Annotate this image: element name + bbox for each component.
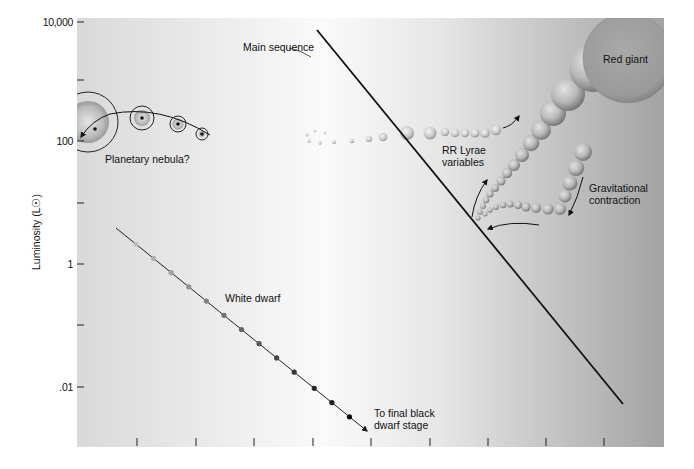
annotation-gravitational-1: Gravitational (589, 182, 648, 194)
nebula-center-dot (140, 116, 144, 120)
annotation-white-dwarf: White dwarf (225, 292, 281, 304)
star-sphere (471, 129, 480, 138)
star-sphere (574, 143, 592, 161)
star-sphere (366, 136, 372, 142)
star-sphere (514, 201, 522, 209)
annotation-rr-lyrae-1: RR Lyrae (442, 144, 486, 156)
star-sphere (461, 129, 470, 138)
star-sphere (483, 197, 490, 204)
star-sphere (480, 128, 490, 138)
star-sphere (522, 203, 531, 212)
white-dwarf-dot (329, 400, 334, 405)
star-sphere (477, 209, 483, 215)
annotation-gravitational-2: contraction (589, 194, 641, 206)
star-sphere (318, 141, 322, 145)
star-sphere (491, 125, 501, 135)
star-sphere (332, 140, 336, 144)
white-dwarf-dot (186, 284, 191, 289)
white-dwarf-dot (239, 327, 244, 332)
chart-canvas: 10,0001001.01 Main sequenceRed giantPlan… (0, 0, 694, 469)
hr-diagram: 10,0001001.01 Main sequenceRed giantPlan… (0, 0, 694, 469)
star-sphere (314, 130, 317, 133)
star-sphere (497, 177, 506, 186)
white-dwarf-dot (169, 270, 174, 275)
annotation-black-dwarf-1: To final black (374, 407, 435, 419)
white-dwarf-dot (256, 341, 261, 346)
star-sphere (559, 190, 572, 203)
white-dwarf-dot (133, 242, 138, 247)
white-dwarf-dot (312, 386, 317, 391)
annotation-red-giant: Red giant (603, 53, 648, 65)
white-dwarf-dot (274, 355, 279, 360)
white-dwarf-dot (292, 370, 297, 375)
star-sphere (506, 200, 513, 207)
star-sphere (531, 203, 541, 213)
y-tick-label: .01 (59, 381, 73, 393)
star-sphere (350, 139, 354, 143)
nebula-center-dot (93, 127, 97, 131)
y-tick-label: 1 (67, 258, 73, 270)
star-sphere (441, 128, 449, 136)
star-sphere (568, 160, 584, 176)
star-sphere (480, 203, 486, 209)
annotation-main-sequence: Main sequence (243, 41, 314, 53)
star-sphere (554, 203, 566, 215)
star-sphere (307, 139, 310, 142)
star-sphere (451, 129, 460, 138)
white-dwarf-dot (204, 298, 209, 303)
star-sphere (306, 134, 309, 137)
y-tick-label: 100 (56, 135, 73, 147)
star-sphere (486, 190, 493, 197)
star-sphere (487, 207, 492, 212)
star-sphere (563, 176, 578, 191)
star-sphere (379, 133, 388, 142)
star-sphere (493, 204, 499, 210)
nebula-center-dot (176, 122, 180, 126)
star-sphere (543, 204, 554, 215)
star-sphere (324, 132, 327, 135)
white-dwarf-dot (347, 414, 352, 419)
white-dwarf-dot (221, 313, 226, 318)
nebula-core (67, 101, 109, 143)
star-sphere (424, 127, 437, 140)
star-sphere (475, 215, 480, 220)
star-sphere (491, 184, 499, 192)
y-axis-label: Luminosity (L☉) (30, 194, 42, 270)
star-sphere (483, 212, 488, 217)
annotation-black-dwarf-2: dwarf stage (374, 419, 428, 431)
star-sphere (500, 202, 506, 208)
nebula-center-dot (200, 132, 204, 136)
annotation-planetary-nebula: Planetary nebula? (105, 153, 190, 165)
y-tick-label: 10,000 (43, 16, 74, 28)
white-dwarf-dot (151, 256, 156, 261)
annotation-rr-lyrae-2: variables (442, 156, 484, 168)
